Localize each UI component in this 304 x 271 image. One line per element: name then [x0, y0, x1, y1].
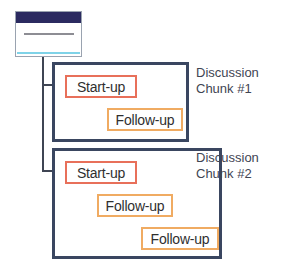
document-accent-line: [17, 52, 80, 54]
node-followup-1-chunk2[interactable]: Follow-up: [97, 194, 173, 217]
node-followup-2-chunk2[interactable]: Follow-up: [141, 227, 219, 250]
diagram-canvas: Start-up Follow-up Discussion Chunk #1 S…: [0, 0, 304, 271]
caption-chunk-2-line1: Discussion: [196, 150, 259, 166]
caption-chunk-2: Discussion Chunk #2: [196, 150, 259, 182]
document-text-line: [24, 33, 74, 35]
node-followup-chunk1[interactable]: Follow-up: [107, 108, 183, 131]
caption-chunk-1-line2: Chunk #1: [196, 81, 259, 97]
discussion-chunk-1: Start-up Follow-up: [52, 62, 189, 142]
document-window-icon: [15, 11, 82, 57]
window-titlebar: [16, 12, 81, 23]
caption-chunk-2-line2: Chunk #2: [196, 166, 259, 182]
node-startup-chunk2[interactable]: Start-up: [65, 161, 137, 184]
caption-chunk-1-line1: Discussion: [196, 65, 259, 81]
caption-chunk-1: Discussion Chunk #1: [196, 65, 259, 97]
node-startup-chunk1[interactable]: Start-up: [65, 75, 137, 98]
